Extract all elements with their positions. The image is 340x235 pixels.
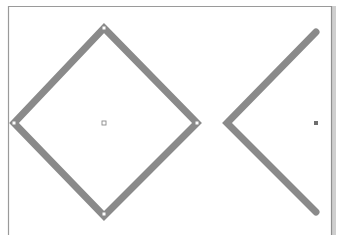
chevron-shape[interactable] <box>227 32 318 212</box>
diamond-top-handle[interactable] <box>103 27 106 30</box>
diamond-center-marker[interactable] <box>102 121 106 125</box>
drawing-surface <box>0 0 340 235</box>
diamond-shape[interactable] <box>13 27 199 217</box>
diamond-bottom-handle[interactable] <box>103 213 106 216</box>
drawing-canvas <box>0 0 340 235</box>
chevron-center-marker[interactable] <box>314 121 318 125</box>
frame-shadow <box>332 6 336 235</box>
chevron-outline[interactable] <box>227 32 316 212</box>
diamond-right-handle[interactable] <box>196 122 199 125</box>
diamond-left-handle[interactable] <box>13 122 16 125</box>
